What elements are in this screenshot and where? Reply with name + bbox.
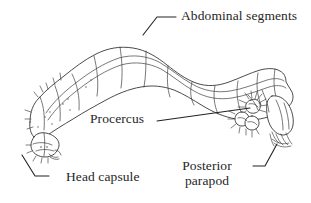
label-head-capsule: Head capsule bbox=[66, 170, 140, 185]
parapod-claws bbox=[270, 132, 292, 147]
figure-root: Abdominal segments Procercus Head capsul… bbox=[0, 0, 311, 203]
head-capsule bbox=[26, 133, 61, 163]
posterior-parapod-leader bbox=[253, 144, 277, 166]
label-abdominal-segments: Abdominal segments bbox=[181, 9, 297, 24]
head-capsule-leader bbox=[22, 155, 49, 176]
larva-drawing bbox=[0, 0, 311, 203]
abdominal-segments-leader bbox=[143, 17, 176, 35]
label-posterior-parapod-line2: parapod bbox=[177, 173, 237, 188]
label-procercus: Procercus bbox=[90, 112, 144, 127]
label-posterior-parapod-line1: Posterior bbox=[177, 158, 237, 173]
larva-body bbox=[25, 47, 293, 163]
label-posterior-parapod: Posterior parapod bbox=[177, 158, 237, 188]
